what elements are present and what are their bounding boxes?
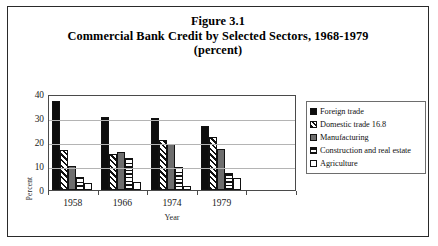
legend-item: Domestic trade 16.8 [310, 118, 422, 131]
legend-swatch-icon [310, 121, 317, 128]
y-axis-tick-labels: 403020100 [8, 79, 44, 237]
gridline [49, 144, 295, 145]
bar [52, 101, 60, 190]
bar [76, 177, 84, 190]
chart-legend: Foreign tradeDomestic trade 16.8Manufact… [306, 101, 426, 174]
bar [209, 137, 217, 190]
x-axis-tick-mark [246, 191, 247, 195]
legend-item-label: Construction and real estate [320, 146, 411, 155]
legend-item-label: Agriculture [320, 159, 358, 168]
figure-title-main: Commercial Bank Credit by Selected Secto… [8, 29, 428, 44]
bar-group [101, 96, 141, 190]
legend-item-label: Foreign trade [320, 107, 364, 116]
gridline [49, 168, 295, 169]
legend-swatch-icon [310, 147, 317, 154]
bar-group [201, 96, 241, 190]
legend-swatch-icon [310, 160, 317, 167]
figure-title-unit: (percent) [8, 43, 428, 58]
x-axis-tick-marks [48, 191, 296, 196]
plot-inner [49, 96, 295, 190]
figure-frame: Figure 3.1 Commercial Bank Credit by Sel… [7, 6, 429, 237]
bar [225, 173, 233, 190]
bar [133, 182, 141, 190]
bar [117, 152, 125, 190]
y-axis-tick-label: 30 [22, 114, 44, 124]
bar [175, 167, 183, 190]
x-axis-tick-mark [296, 191, 297, 195]
legend-item: Construction and real estate [310, 144, 422, 157]
figure-number: Figure 3.1 [8, 14, 428, 29]
y-axis-tick-label: 20 [22, 138, 44, 148]
gridline [49, 120, 295, 121]
legend-item: Foreign trade [310, 105, 422, 118]
plot-area [48, 95, 296, 191]
bar [84, 183, 92, 190]
legend-swatch-icon [310, 108, 317, 115]
x-axis-title: Year [48, 213, 296, 222]
bar-group [151, 96, 191, 190]
bar [183, 186, 191, 190]
x-axis-tick-mark [48, 191, 49, 195]
y-axis-tick-label: 40 [22, 90, 44, 100]
x-axis-tick-label: 1979 [192, 197, 252, 208]
y-axis-tick-label: 0 [22, 186, 44, 196]
legend-item-label: Domestic trade 16.8 [320, 120, 386, 129]
bar [151, 118, 159, 190]
bar [68, 166, 76, 190]
bar [125, 158, 133, 190]
bar [109, 154, 117, 190]
x-axis-tick-mark [98, 191, 99, 195]
bar [60, 150, 68, 190]
y-axis-tick-label: 10 [22, 162, 44, 172]
figure-title: Figure 3.1 Commercial Bank Credit by Sel… [8, 14, 428, 58]
bar [233, 178, 241, 190]
legend-item: Manufacturing [310, 131, 422, 144]
bar-group [52, 96, 92, 190]
bar [159, 140, 167, 190]
legend-swatch-icon [310, 134, 317, 141]
bar [201, 126, 209, 190]
bar [101, 117, 109, 190]
chart-area: Percent 403020100 1958196619741979 Year … [8, 79, 430, 237]
legend-item-label: Manufacturing [320, 133, 369, 142]
x-axis-tick-mark [197, 191, 198, 195]
x-axis-tick-mark [147, 191, 148, 195]
bar [217, 149, 225, 190]
legend-item: Agriculture [310, 157, 422, 170]
